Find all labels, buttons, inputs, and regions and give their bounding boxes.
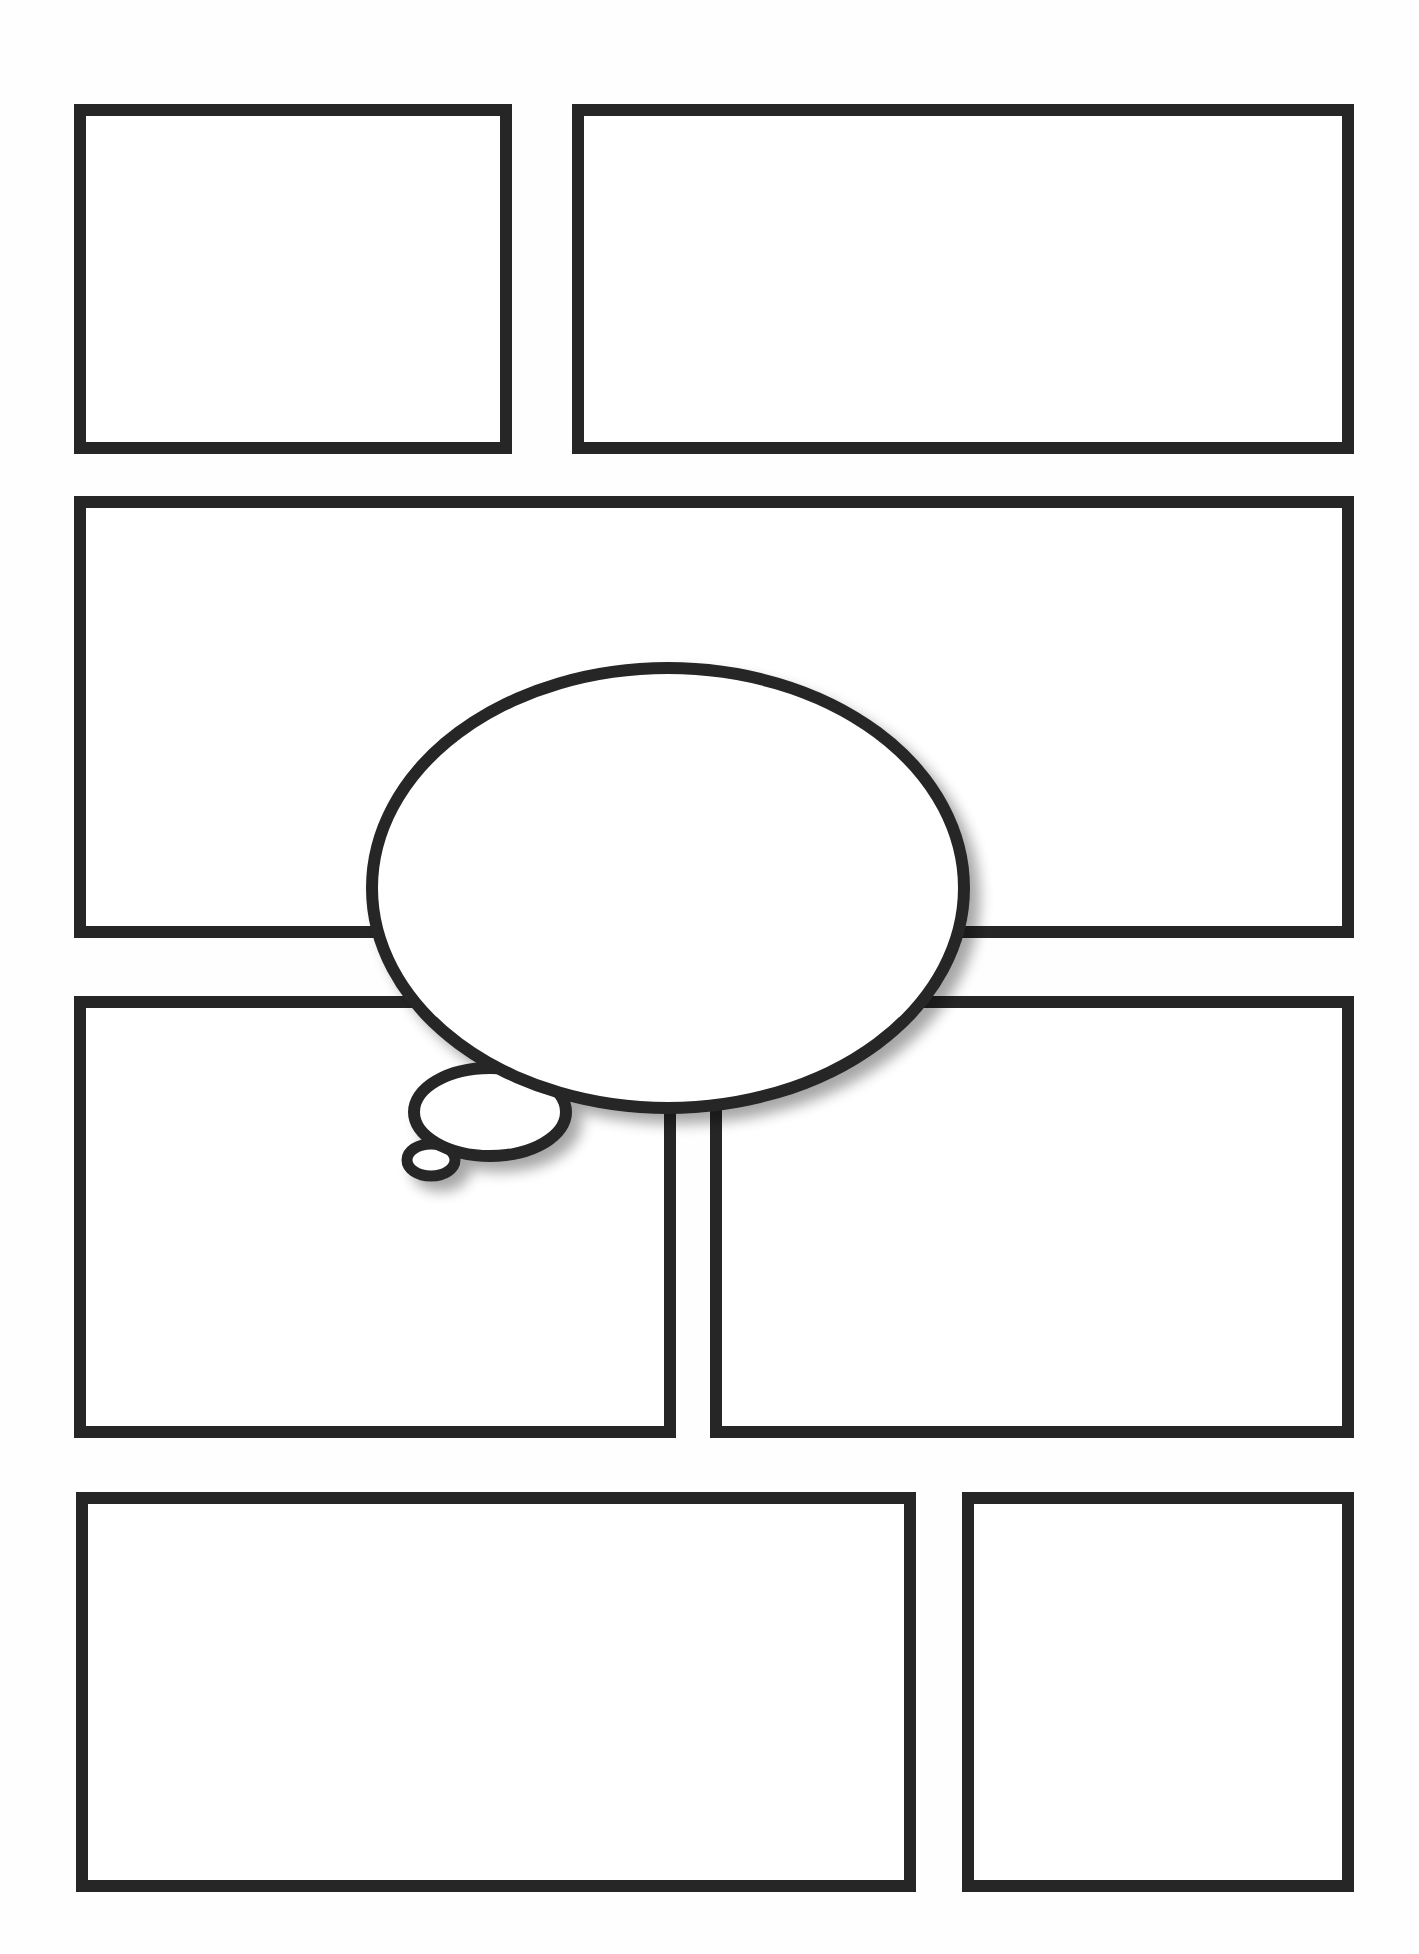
- panel-2[interactable]: [572, 104, 1354, 454]
- panel-5[interactable]: [710, 996, 1354, 1438]
- panel-4[interactable]: [74, 996, 676, 1438]
- panel-6[interactable]: [76, 1492, 916, 1892]
- panel-1[interactable]: [74, 104, 512, 454]
- panel-3[interactable]: [74, 496, 1354, 938]
- panel-7[interactable]: [962, 1492, 1354, 1892]
- comic-page: [0, 0, 1419, 1954]
